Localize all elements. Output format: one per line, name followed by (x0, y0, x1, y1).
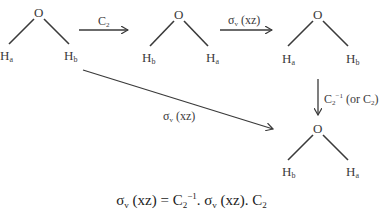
molecule-2-bonds (150, 21, 208, 46)
molecule-1-right-hydrogen: Hb (64, 49, 77, 64)
equation: σv (xz) = C2−1. σv (xz). C2 (0, 192, 383, 210)
molecule-1-left-hydrogen: Ha (0, 49, 13, 64)
molecule-4-oxygen: O (313, 122, 322, 135)
molecule-2-oxygen: O (174, 8, 183, 21)
molecule-2-left-hydrogen: Hb (142, 51, 155, 66)
molecule-4-bonds (288, 135, 348, 160)
diagram-canvas (0, 0, 383, 215)
molecule-2-right-hydrogen: Ha (206, 51, 219, 66)
molecule-3-left-hydrogen: Ha (282, 52, 295, 67)
molecule-3-right-hydrogen: Hb (346, 52, 359, 67)
arrow-c2-inverse-label: C2−1 (or C2) (324, 93, 378, 107)
molecule-4-left-hydrogen: Hb (282, 165, 295, 180)
molecule-4-right-hydrogen: Ha (346, 165, 359, 180)
arrow-c2-label: C2 (98, 15, 110, 29)
molecule-3-bonds (288, 21, 348, 46)
molecule-3-oxygen: O (313, 8, 322, 21)
arrow-sigma-v-top-label: σv (xz) (228, 14, 260, 28)
arrow-sigma-v-diagonal-label: σv (xz) (163, 110, 195, 124)
molecule-1-oxygen: O (34, 6, 43, 19)
molecule-1-bonds (9, 19, 69, 44)
